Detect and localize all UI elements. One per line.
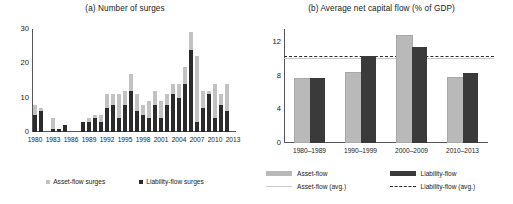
panel-a-x-tick-label: 1980: [28, 136, 43, 143]
panel-b-x-tick-label: 2010–2013: [446, 147, 479, 154]
panel-a-bar-segment-liability: [171, 94, 174, 132]
panel-b-bar-liability-flow: [361, 56, 376, 143]
panel-a-bar-segment-liability: [213, 118, 216, 132]
panel-a-bar-segment-asset: [177, 84, 180, 98]
panel-b-y-tick-label: 8: [277, 72, 281, 80]
panel-a-bar-segment-liability: [177, 98, 180, 132]
panel-a-legend-item: Asset-flow surges: [46, 178, 105, 185]
panel-a-bar: [201, 91, 204, 132]
panel-a-bar-segment-asset: [51, 118, 54, 128]
panel-a-x-tick-label: 1998: [136, 136, 151, 143]
legend-swatch-bar-icon: [390, 171, 416, 176]
panel-a-y-tick-label: 0: [25, 128, 29, 136]
panel-a-bar-segment-asset: [225, 84, 228, 111]
panel-b-legend-item: Asset-flow: [266, 170, 384, 177]
panel-a-title: (a) Number of surges: [0, 4, 250, 13]
panel-a-bar: [135, 94, 138, 132]
panel-a-bar-segment-asset: [141, 105, 144, 115]
panel-a-bar-segment-liability: [93, 118, 96, 132]
panel-b-title: (b) Average net capital flow (% of GDP): [250, 4, 513, 13]
panel-a-bar-segment-liability: [141, 115, 144, 132]
panel-a-bar: [105, 94, 108, 132]
panel-a-bar: [225, 84, 228, 132]
panel-a-legend-label: Asset-flow surges: [53, 178, 105, 185]
panel-a-bar: [81, 122, 84, 132]
panel-a-bar-segment-asset: [171, 84, 174, 94]
panel-b-y-tick-label: 4: [277, 106, 281, 114]
panel-a-bar: [159, 101, 162, 132]
panel-a-bar-segment-liability: [207, 94, 210, 132]
panel-a-bar-segment-asset: [117, 94, 120, 118]
panel-a-bar-segment-asset: [105, 94, 108, 108]
panel-a-legend-label: Liability-flow surges: [146, 178, 204, 185]
panel-a-bar-segment-liability: [225, 111, 228, 132]
panel-a-bar-segment-asset: [219, 94, 222, 104]
panel-a-bar-segment-liability: [129, 91, 132, 132]
panel-a-bar-segment-asset: [213, 84, 216, 118]
panel-b-average-line-liability: [284, 56, 494, 57]
panel-a-bar-segment-asset: [123, 91, 126, 105]
panel-a-bar-segment-liability: [81, 122, 84, 132]
panel-a-bar-segment-liability: [51, 129, 54, 132]
panel-a-bar: [183, 67, 186, 132]
panel-a-legend: Asset-flow surgesLiability-flow surges: [0, 178, 250, 185]
panel-b-bar-liability-flow: [463, 73, 478, 143]
panel-a-x-tick-label: 1989: [82, 136, 97, 143]
panel-a-x-tick-label: 1995: [118, 136, 133, 143]
panel-a-bar: [195, 56, 198, 132]
panel-a-x-tick-label: 2007: [190, 136, 205, 143]
panel-a-bar-segment-liability: [63, 125, 66, 132]
panel-a-bar-segment-liability: [39, 111, 42, 132]
panel-a-x-tick-label: 2010: [208, 136, 223, 143]
panel-a-bar-segment-liability: [99, 122, 102, 132]
panel-b-legend-label: Liability-flow (avg.): [421, 183, 476, 190]
panel-a-bar-segment-asset: [129, 74, 132, 91]
chart-panel-a: (a) Number of surges 0102030 19801983198…: [0, 0, 250, 204]
panel-a-x-tick-label: 2013: [226, 136, 241, 143]
panel-a-bar-segment-liability: [105, 108, 108, 132]
panel-a-bar: [213, 84, 216, 132]
panel-a-bar: [189, 32, 192, 132]
panel-b-legend-item: Liability-flow: [390, 170, 508, 177]
panel-a-x-tick-label: 2001: [154, 136, 169, 143]
panel-a-bar: [171, 84, 174, 132]
legend-swatch-bar-icon: [266, 171, 292, 176]
panel-a-y-tick-label: 30: [21, 25, 29, 33]
panel-a-bar-segment-liability: [165, 105, 168, 132]
legend-swatch-dashed-line-icon: [390, 186, 416, 187]
panel-a-bar-segment-liability: [117, 118, 120, 132]
panel-a-bar-segment-liability: [201, 108, 204, 132]
panel-a-bar: [87, 118, 90, 132]
panel-a-x-tick-label: 1992: [100, 136, 115, 143]
panel-a-bar-segment-liability: [195, 122, 198, 132]
panel-b-y-tick-label: 0: [277, 139, 281, 147]
panel-b-y-tick-label: 12: [273, 39, 281, 47]
panel-b-legend-label: Asset-flow (avg.): [297, 183, 346, 190]
panel-a-bar-segment-liability: [219, 105, 222, 132]
panel-b-plot-area: 04812 1980–19891990–19992000–20092010–20…: [284, 29, 488, 143]
panel-a-y-tick-label: 20: [21, 60, 29, 68]
panel-a-bar-segment-liability: [87, 122, 90, 132]
panel-a-bar-segment-asset: [99, 115, 102, 122]
panel-a-bar-segment-asset: [183, 67, 186, 84]
panel-a-bar: [147, 101, 150, 132]
panel-a-bar: [219, 94, 222, 132]
panel-a-bar-segment-asset: [111, 94, 114, 104]
panel-a-bar: [33, 105, 36, 132]
figure-root: (a) Number of surges 0102030 19801983198…: [0, 0, 513, 204]
legend-swatch-solid-line-icon: [266, 186, 292, 187]
panel-a-bar-segment-asset: [153, 91, 156, 105]
panel-b-legend-label: Asset-flow: [297, 170, 327, 177]
panel-a-bar: [123, 91, 126, 132]
panel-a-bar: [165, 94, 168, 132]
panel-a-bar-segment-asset: [189, 32, 192, 49]
panel-a-x-tick-label: 1983: [46, 136, 61, 143]
panel-b-average-line-asset: [284, 58, 494, 59]
panel-a-x-tick-label: 1986: [64, 136, 79, 143]
panel-a-bar-segment-liability: [135, 111, 138, 132]
panel-b-legend-item: Asset-flow (avg.): [266, 183, 384, 190]
panel-b-bar-liability-flow: [412, 47, 427, 143]
panel-a-bar-segment-asset: [135, 94, 138, 111]
panel-b-x-tick-label: 2000–2009: [395, 147, 428, 154]
panel-a-bar: [111, 94, 114, 132]
